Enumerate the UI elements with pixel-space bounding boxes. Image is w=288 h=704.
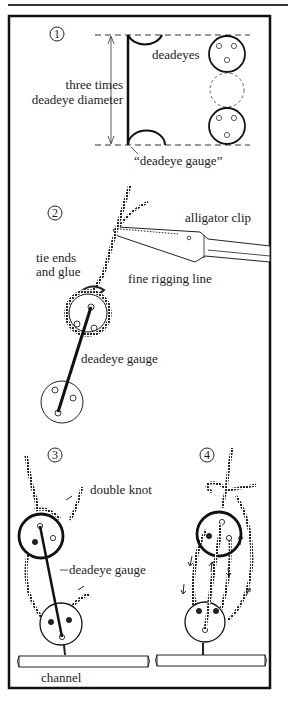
label-fine-rigging-line: fine rigging line	[128, 271, 212, 286]
deadeye-top	[209, 36, 245, 72]
label-channel: channel	[41, 670, 82, 685]
label-deadeye-gauge-quoted: “deadeye gauge”	[134, 153, 223, 168]
label-deadeye-diameter: deadeye diameter	[32, 92, 124, 107]
label-deadeye-gauge: deadeye gauge	[69, 562, 146, 577]
channel-bar-right	[156, 655, 267, 666]
label-deadeye-gauge: deadeye gauge	[81, 351, 158, 366]
label-double-knot: double knot	[90, 482, 152, 497]
panel-number: 4	[204, 448, 210, 462]
deadeye-lower	[40, 603, 82, 645]
channel-bar-left	[18, 656, 150, 667]
label-tie-ends: tie ends	[36, 250, 76, 265]
deadeye-rigging-diagram: 1 deadeyes	[0, 0, 288, 704]
panel-number: 1	[54, 27, 60, 41]
panel-number: 2	[52, 206, 58, 220]
label-three-times: three times	[66, 77, 123, 92]
label-deadeyes: deadeyes	[152, 47, 200, 62]
chain-plate	[64, 645, 65, 655]
panel-number: 3	[52, 448, 58, 462]
deadeye-bottom	[209, 108, 245, 144]
label-and-glue: and glue	[36, 264, 81, 279]
label-alligator-clip: alligator clip	[185, 210, 251, 225]
